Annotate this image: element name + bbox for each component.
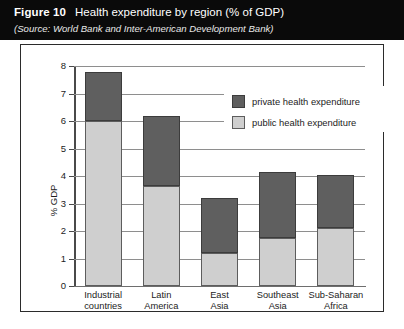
- bar-segment-private[interactable]: [317, 175, 354, 229]
- y-axis-tick-label: 5: [48, 144, 66, 154]
- figure-title-text: Health expenditure by region (% of GDP): [75, 6, 284, 18]
- bar-group[interactable]: [85, 66, 122, 286]
- legend-swatch-private: [232, 95, 245, 108]
- x-axis-category-line: America: [132, 301, 190, 312]
- legend-item-private[interactable]: private health expenditure: [232, 91, 382, 112]
- plot-wrapper: % GDP 012345678 IndustrialcountriesLatin…: [21, 45, 383, 311]
- y-axis-tick-label: 1: [48, 254, 66, 264]
- x-axis-category-label: Industrialcountries: [74, 290, 132, 312]
- figure-title: Figure 10Health expenditure by region (%…: [14, 5, 404, 19]
- x-axis-category-line: Africa: [307, 301, 365, 312]
- y-axis-tick-label: 7: [48, 89, 66, 99]
- x-axis-category-line: Asia: [249, 301, 307, 312]
- legend-label-private: private health expenditure: [252, 96, 360, 107]
- bar-segment-public[interactable]: [201, 253, 238, 286]
- x-axis-category-line: Southeast: [249, 290, 307, 301]
- bar-segment-public[interactable]: [85, 121, 122, 286]
- legend-label-public: public health expenditure: [252, 117, 356, 128]
- x-axis-category-label: LatinAmerica: [132, 290, 190, 312]
- figure-header: Figure 10Health expenditure by region (%…: [0, 0, 404, 40]
- x-axis-category-label: Sub-SaharanAfrica: [307, 290, 365, 312]
- figure-health-expenditure: Figure 10Health expenditure by region (%…: [0, 0, 404, 329]
- plot-area: 012345678 IndustrialcountriesLatinAmeric…: [74, 66, 365, 286]
- bar-segment-public[interactable]: [143, 186, 180, 286]
- bar-segment-public[interactable]: [317, 228, 354, 286]
- y-axis-tick-label: 6: [48, 116, 66, 126]
- x-axis-category-line: East: [190, 290, 248, 301]
- legend-swatch-public: [232, 116, 245, 129]
- chart-legend: private health expenditurepublic health …: [232, 91, 382, 133]
- bar-segment-public[interactable]: [259, 238, 296, 286]
- bar-segment-private[interactable]: [259, 172, 296, 238]
- x-axis-category-line: Latin: [132, 290, 190, 301]
- x-axis-category-label: SoutheastAsia: [249, 290, 307, 312]
- y-axis-tick-label: 0: [48, 281, 66, 291]
- x-axis-category-line: Sub-Saharan: [307, 290, 365, 301]
- figure-source: (Source: World Bank and Inter-American D…: [14, 22, 404, 35]
- bar-segment-private[interactable]: [143, 116, 180, 186]
- bar-group[interactable]: [143, 66, 180, 286]
- y-axis-tick-label: 3: [48, 199, 66, 209]
- y-axis-tick: [69, 286, 74, 287]
- x-axis-category-line: countries: [74, 301, 132, 312]
- chart-frame: % GDP 012345678 IndustrialcountriesLatin…: [20, 44, 384, 312]
- y-axis-tick-label: 4: [48, 171, 66, 181]
- figure-number: Figure 10: [14, 6, 66, 18]
- y-axis-tick-label: 2: [48, 226, 66, 236]
- x-axis-category-line: Asia: [190, 301, 248, 312]
- x-axis-category-line: Industrial: [74, 290, 132, 301]
- bar-segment-private[interactable]: [201, 198, 238, 253]
- bar-segment-private[interactable]: [85, 72, 122, 122]
- y-axis-tick-label: 8: [48, 61, 66, 71]
- x-axis-category-label: EastAsia: [190, 290, 248, 312]
- legend-item-public[interactable]: public health expenditure: [232, 112, 382, 133]
